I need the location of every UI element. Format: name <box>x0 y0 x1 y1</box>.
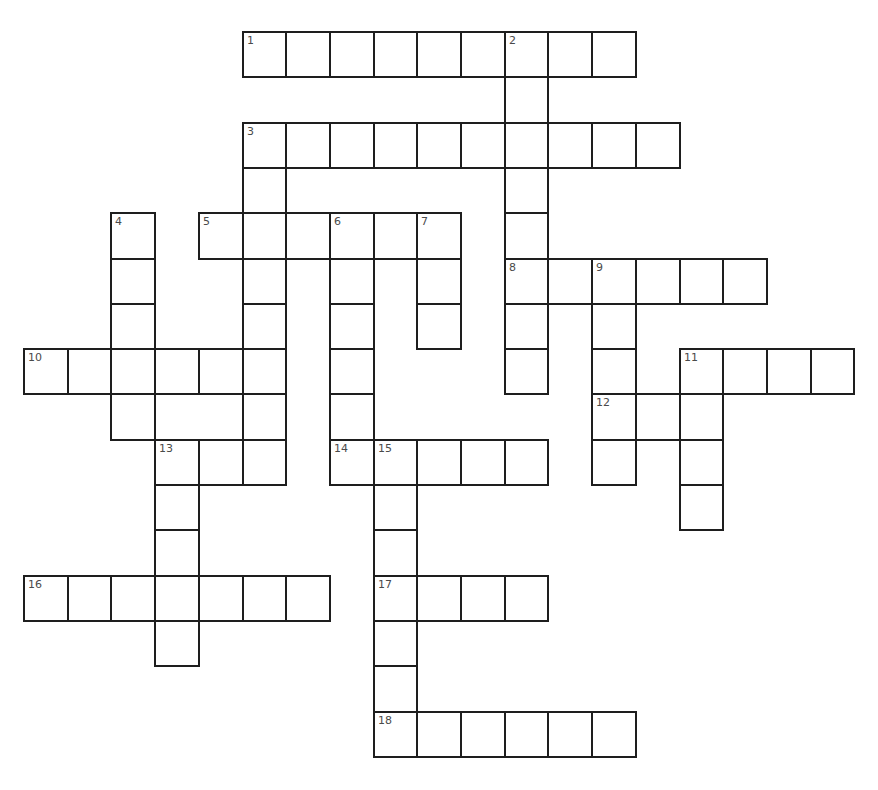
crossword-cell[interactable] <box>635 258 681 305</box>
crossword-cell[interactable] <box>198 439 244 486</box>
letter-input[interactable] <box>724 350 766 393</box>
crossword-cell[interactable] <box>329 393 375 441</box>
letter-input[interactable] <box>506 260 547 303</box>
letter-input[interactable] <box>25 350 67 393</box>
crossword-cell[interactable] <box>416 575 462 622</box>
crossword-cell[interactable] <box>67 575 112 622</box>
letter-input[interactable] <box>244 577 285 620</box>
letter-input[interactable] <box>462 441 504 484</box>
crossword-cell[interactable] <box>285 31 331 78</box>
crossword-cell[interactable] <box>154 484 200 531</box>
crossword-cell[interactable] <box>504 167 549 214</box>
crossword-cell[interactable]: 13 <box>154 439 200 486</box>
letter-input[interactable] <box>506 169 547 212</box>
crossword-cell[interactable] <box>242 575 287 622</box>
crossword-cell[interactable]: 18 <box>373 711 418 758</box>
crossword-cell[interactable] <box>635 122 681 169</box>
crossword-cell[interactable] <box>285 122 331 169</box>
letter-input[interactable] <box>244 305 285 348</box>
letter-input[interactable] <box>331 260 373 303</box>
crossword-cell[interactable] <box>373 31 418 78</box>
crossword-cell[interactable] <box>242 258 287 305</box>
letter-input[interactable] <box>418 260 460 303</box>
letter-input[interactable] <box>593 395 635 439</box>
crossword-cell[interactable] <box>242 393 287 441</box>
letter-input[interactable] <box>331 33 373 76</box>
letter-input[interactable] <box>375 214 416 258</box>
letter-input[interactable] <box>69 350 110 393</box>
letter-input[interactable] <box>287 124 329 167</box>
letter-input[interactable] <box>244 33 285 76</box>
crossword-cell[interactable] <box>242 439 287 486</box>
letter-input[interactable] <box>418 33 460 76</box>
crossword-cell[interactable]: 9 <box>591 258 637 305</box>
crossword-cell[interactable]: 12 <box>591 393 637 441</box>
letter-input[interactable] <box>593 350 635 393</box>
letter-input[interactable] <box>506 305 547 348</box>
crossword-cell[interactable] <box>329 348 375 395</box>
crossword-cell[interactable] <box>679 258 724 305</box>
crossword-cell[interactable]: 4 <box>110 212 156 260</box>
letter-input[interactable] <box>637 260 679 303</box>
letter-input[interactable] <box>331 441 373 484</box>
crossword-cell[interactable] <box>810 348 855 395</box>
crossword-cell[interactable] <box>504 122 549 169</box>
letter-input[interactable] <box>112 260 154 303</box>
crossword-cell[interactable] <box>722 348 768 395</box>
crossword-cell[interactable] <box>285 212 331 260</box>
letter-input[interactable] <box>156 350 198 393</box>
letter-input[interactable] <box>375 577 416 620</box>
letter-input[interactable] <box>331 214 373 258</box>
letter-input[interactable] <box>549 33 591 76</box>
letter-input[interactable] <box>418 124 460 167</box>
letter-input[interactable] <box>637 395 679 439</box>
crossword-cell[interactable] <box>67 348 112 395</box>
letter-input[interactable] <box>375 486 416 529</box>
letter-input[interactable] <box>462 124 504 167</box>
letter-input[interactable] <box>593 124 635 167</box>
letter-input[interactable] <box>506 577 547 620</box>
letter-input[interactable] <box>506 78 547 122</box>
letter-input[interactable] <box>506 713 547 756</box>
letter-input[interactable] <box>812 350 853 393</box>
crossword-cell[interactable] <box>460 439 506 486</box>
crossword-cell[interactable] <box>242 303 287 350</box>
letter-input[interactable] <box>375 667 416 711</box>
letter-input[interactable] <box>593 260 635 303</box>
crossword-cell[interactable]: 11 <box>679 348 724 395</box>
crossword-cell[interactable] <box>766 348 812 395</box>
letter-input[interactable] <box>375 441 416 484</box>
letter-input[interactable] <box>418 305 460 348</box>
letter-input[interactable] <box>156 486 198 529</box>
letter-input[interactable] <box>375 531 416 575</box>
crossword-cell[interactable] <box>635 393 681 441</box>
letter-input[interactable] <box>244 124 285 167</box>
letter-input[interactable] <box>418 441 460 484</box>
crossword-cell[interactable] <box>110 303 156 350</box>
letter-input[interactable] <box>549 260 591 303</box>
letter-input[interactable] <box>244 395 285 439</box>
crossword-cell[interactable] <box>460 122 506 169</box>
crossword-cell[interactable]: 14 <box>329 439 375 486</box>
crossword-cell[interactable] <box>460 711 506 758</box>
letter-input[interactable] <box>593 33 635 76</box>
crossword-cell[interactable] <box>373 620 418 667</box>
crossword-cell[interactable] <box>547 31 593 78</box>
letter-input[interactable] <box>462 33 504 76</box>
letter-input[interactable] <box>156 577 198 620</box>
crossword-cell[interactable] <box>198 575 244 622</box>
crossword-cell[interactable] <box>722 258 768 305</box>
letter-input[interactable] <box>112 214 154 258</box>
crossword-cell[interactable] <box>460 575 506 622</box>
letter-input[interactable] <box>681 260 722 303</box>
letter-input[interactable] <box>418 713 460 756</box>
crossword-cell[interactable] <box>329 122 375 169</box>
crossword-cell[interactable] <box>154 620 200 667</box>
letter-input[interactable] <box>244 260 285 303</box>
crossword-cell[interactable]: 8 <box>504 258 549 305</box>
crossword-cell[interactable]: 2 <box>504 31 549 78</box>
letter-input[interactable] <box>681 441 722 484</box>
crossword-cell[interactable] <box>373 122 418 169</box>
letter-input[interactable] <box>637 124 679 167</box>
crossword-cell[interactable] <box>591 122 637 169</box>
